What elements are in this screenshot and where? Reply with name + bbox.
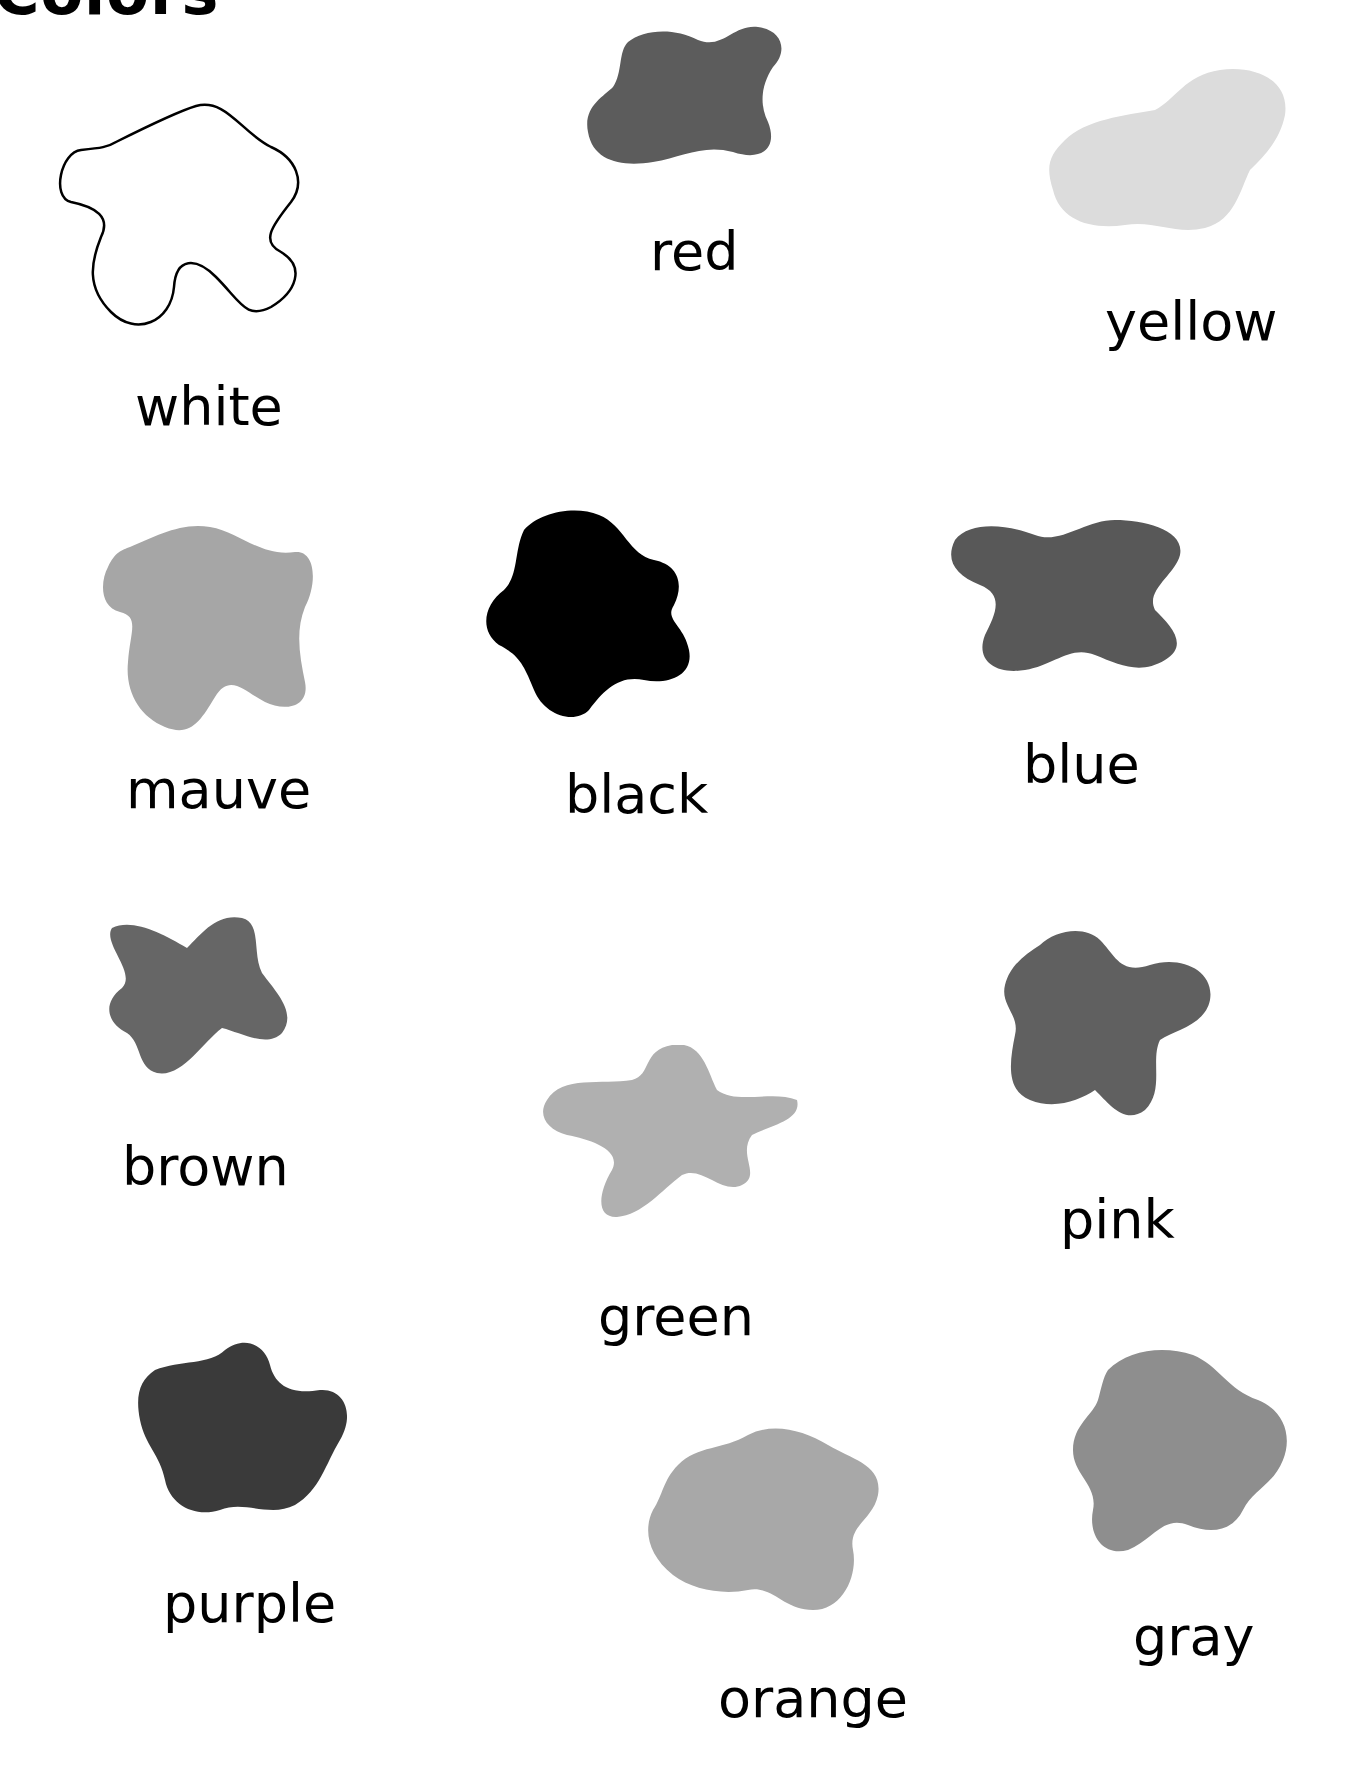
- orange-swatch: [643, 1425, 881, 1615]
- label-green: green: [598, 1290, 754, 1344]
- label-white: white: [135, 380, 283, 434]
- label-yellow: yellow: [1105, 295, 1277, 349]
- mauve-swatch: [100, 522, 316, 732]
- label-red: red: [650, 225, 739, 279]
- label-orange: orange: [718, 1672, 908, 1726]
- label-blue: blue: [1023, 738, 1140, 792]
- pink-swatch: [1000, 925, 1218, 1120]
- label-purple: purple: [163, 1577, 336, 1631]
- blue-swatch: [945, 515, 1190, 675]
- blob-outline-icon: [56, 92, 302, 332]
- brown-swatch: [102, 913, 302, 1078]
- label-mauve: mauve: [126, 763, 311, 817]
- label-gray: gray: [1133, 1610, 1255, 1664]
- white-swatch: [56, 92, 302, 332]
- label-black: black: [565, 768, 708, 822]
- yellow-swatch: [1045, 60, 1295, 235]
- black-swatch: [484, 505, 710, 720]
- label-pink: pink: [1060, 1193, 1175, 1247]
- purple-swatch: [135, 1340, 350, 1518]
- gray-swatch: [1068, 1345, 1293, 1557]
- label-brown: brown: [122, 1140, 289, 1194]
- page-title: Colors: [0, 0, 219, 29]
- green-swatch: [542, 1045, 800, 1220]
- red-swatch: [583, 22, 790, 170]
